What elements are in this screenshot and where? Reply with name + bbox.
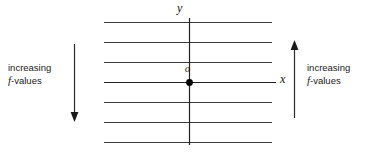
right-arrow-up bbox=[291, 40, 299, 118]
origin-label: o bbox=[185, 63, 190, 74]
left-annotation: increasing f-values bbox=[8, 62, 51, 87]
origin-point bbox=[186, 79, 193, 86]
y-axis-label: y bbox=[177, 1, 182, 16]
right-annotation-values-text: -values bbox=[310, 75, 341, 86]
left-annotation-line1: increasing bbox=[8, 62, 51, 74]
x-axis-label: x bbox=[280, 72, 285, 87]
right-annotation-line2: f-values bbox=[307, 74, 350, 87]
right-annotation: increasing f-values bbox=[307, 62, 350, 87]
left-arrow-down bbox=[71, 44, 79, 122]
left-annotation-line2: f-values bbox=[8, 74, 51, 87]
left-annotation-values-text: -values bbox=[11, 75, 42, 86]
right-annotation-line1: increasing bbox=[307, 62, 350, 74]
level-curve-figure: y x o increasing f-values increasing f-v… bbox=[0, 0, 371, 154]
